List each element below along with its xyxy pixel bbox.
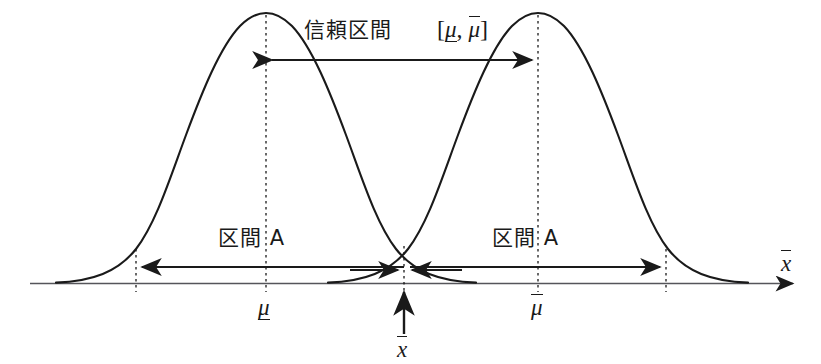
interval-a-right-label: 区間 A [492,228,559,249]
bracket-open: [ [437,16,445,42]
dotted-guides [136,15,666,292]
interval-a-left-label: 区間 A [218,228,285,249]
x-axis-label: x [781,250,791,275]
mu-upper-tick-label: μ [531,294,543,319]
xbar-tick-label: x [397,336,407,361]
statistics-figure: 信頼区間 [μ, μ] 区間 A 区間 A μ μ x x [0,0,821,364]
confidence-interval-label: 信頼区間 [304,20,392,41]
mu-lower-tick-label: μ [258,296,270,320]
xbar-tick-symbol: x [397,336,407,361]
figure-canvas [0,0,821,364]
x-axis-label-symbol: x [781,250,791,275]
confidence-interval-notation: [μ, μ] [437,16,488,42]
notation-comma: , [457,16,463,42]
mu-upper-symbol: μ [469,16,481,41]
mu-upper-tick-symbol: μ [531,294,543,319]
mu-lower-tick-symbol: μ [258,296,270,320]
bracket-close: ] [480,16,488,42]
mu-lower-symbol: μ [445,18,457,42]
